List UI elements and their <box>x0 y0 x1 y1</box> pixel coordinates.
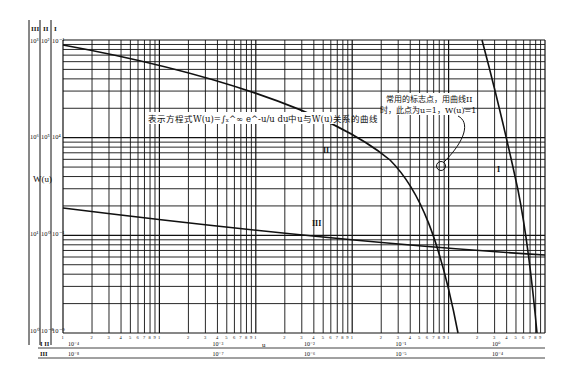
svg-text:3: 3 <box>107 335 110 340</box>
curves <box>63 40 545 333</box>
svg-text:10⁵: 10⁵ <box>41 133 50 140</box>
svg-text:4: 4 <box>216 335 219 340</box>
svg-text:9: 9 <box>250 335 253 340</box>
svg-text:4: 4 <box>409 335 412 340</box>
svg-text:1: 1 <box>447 335 449 340</box>
svg-text:3: 3 <box>397 335 400 340</box>
svg-text:6: 6 <box>233 335 236 340</box>
svg-text:7: 7 <box>239 335 242 340</box>
y-axis-labels: 10³ 10² 10⁻¹ 10⁶ 10⁵ 10⁴ 10¹ 10⁰ 10⁻¹ 10… <box>30 37 66 334</box>
svg-text:9: 9 <box>153 335 156 340</box>
svg-text:10⁶: 10⁶ <box>30 133 39 140</box>
log-grid <box>63 40 545 333</box>
x-row-label-I-II: I II <box>40 340 50 347</box>
svg-text:10⁻¹: 10⁻¹ <box>52 37 65 44</box>
curve-I <box>482 40 537 333</box>
svg-text:10¹: 10¹ <box>30 230 39 237</box>
annotation-line-2: 时，此点为u=1，W(u)=1 <box>380 105 476 115</box>
svg-text:6: 6 <box>137 335 140 340</box>
x-axis-ticks-III: 10⁻⁸10⁻⁷10⁻⁶10⁻⁵10⁻⁴ <box>68 351 503 357</box>
svg-text:10⁻⁹: 10⁻⁹ <box>52 327 66 334</box>
svg-text:3: 3 <box>204 335 207 340</box>
svg-text:6: 6 <box>329 335 332 340</box>
svg-text:5: 5 <box>322 335 325 340</box>
svg-text:2: 2 <box>91 335 93 340</box>
svg-text:10⁰: 10⁰ <box>30 327 40 334</box>
curve-label-III: III <box>312 219 321 228</box>
x-axis-minor-ticks: 1234567891234567891234567891234567891234… <box>62 335 543 340</box>
svg-text:10³: 10³ <box>30 37 39 44</box>
svg-text:1: 1 <box>254 335 256 340</box>
svg-text:10²: 10² <box>41 37 50 44</box>
svg-text:1: 1 <box>158 335 160 340</box>
svg-text:10⁴: 10⁴ <box>52 133 62 140</box>
svg-text:2: 2 <box>187 335 189 340</box>
svg-text:3: 3 <box>493 335 496 340</box>
svg-text:9: 9 <box>346 335 349 340</box>
svg-text:7: 7 <box>432 335 435 340</box>
svg-text:8: 8 <box>245 335 248 340</box>
svg-text:8: 8 <box>341 335 344 340</box>
y-axis-title: W(u) <box>33 174 52 184</box>
svg-text:9: 9 <box>539 335 542 340</box>
svg-text:7: 7 <box>143 335 146 340</box>
svg-text:4: 4 <box>505 335 508 340</box>
svg-text:10⁻⁶: 10⁻⁶ <box>304 351 315 357</box>
annotation-line-1: 常用的标志点，用曲线II <box>386 94 472 104</box>
svg-text:10⁻⁵: 10⁻⁵ <box>396 351 407 357</box>
curve-III <box>63 208 545 255</box>
svg-text:6: 6 <box>426 335 429 340</box>
svg-text:10⁻⁷: 10⁻⁷ <box>212 351 223 357</box>
svg-text:8: 8 <box>438 335 441 340</box>
svg-text:10⁻³: 10⁻³ <box>212 341 223 347</box>
svg-text:10⁻¹: 10⁻¹ <box>396 341 407 347</box>
svg-text:10⁻⁴: 10⁻⁴ <box>492 351 503 357</box>
y-column-header-III: III <box>31 25 39 33</box>
svg-text:1: 1 <box>351 335 353 340</box>
curve-label-I: I <box>497 165 500 174</box>
svg-text:8: 8 <box>149 335 152 340</box>
annotation-arrow <box>444 116 465 162</box>
svg-text:5: 5 <box>418 335 421 340</box>
x-axis-ticks-I-II: 10⁻⁴10⁻³10⁻²10⁻¹10⁰ <box>68 341 501 347</box>
svg-text:5: 5 <box>129 335 132 340</box>
svg-text:10⁰: 10⁰ <box>492 341 501 347</box>
svg-text:4: 4 <box>120 335 123 340</box>
svg-text:9: 9 <box>443 335 446 340</box>
svg-text:8: 8 <box>534 335 537 340</box>
x-axis-title: u <box>262 341 266 349</box>
svg-text:7: 7 <box>529 335 532 340</box>
svg-text:1: 1 <box>62 335 64 340</box>
svg-text:3: 3 <box>300 335 303 340</box>
svg-text:2: 2 <box>380 335 382 340</box>
y-column-header-II: II <box>43 25 49 33</box>
svg-text:10⁻⁸: 10⁻⁸ <box>68 351 79 357</box>
svg-text:10⁻²: 10⁻² <box>304 341 315 347</box>
svg-text:10⁻⁴: 10⁻⁴ <box>68 341 79 347</box>
x-row-label-III: III <box>40 350 48 357</box>
curve-label-II: II <box>323 146 329 155</box>
chart-title: 表示方程式W(u)=∫ₓ^∞ e^-u/u du中u与W(u)关系的曲线 <box>148 114 378 124</box>
svg-text:5: 5 <box>514 335 517 340</box>
svg-text:10⁰: 10⁰ <box>41 230 51 237</box>
svg-text:5: 5 <box>225 335 228 340</box>
y-column-header-I: I <box>54 25 57 33</box>
svg-text:6: 6 <box>522 335 525 340</box>
svg-text:2: 2 <box>283 335 285 340</box>
svg-text:10⁻¹: 10⁻¹ <box>52 230 65 237</box>
theis-type-curve-chart: III II I 10³ 10² 10⁻¹ 10⁶ 10⁵ 10⁴ 10¹ 10… <box>0 0 563 382</box>
svg-text:2: 2 <box>476 335 478 340</box>
svg-text:4: 4 <box>312 335 315 340</box>
svg-text:7: 7 <box>336 335 339 340</box>
